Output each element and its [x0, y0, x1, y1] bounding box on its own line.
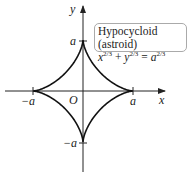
y-axis-label: y — [69, 2, 76, 16]
x-axis-label: x — [158, 93, 165, 107]
legend-equation: x2/3 + y2/3 = a2/3 — [98, 51, 186, 64]
tick-label-neg-y: −a — [63, 136, 77, 150]
tick-label-pos-x: a — [130, 94, 136, 108]
legend-box: Hypocycloid (astroid) x2/3 + y2/3 = a2/3 — [94, 23, 187, 52]
origin-label: O — [69, 93, 78, 107]
tick-label-neg-x: −a — [21, 94, 35, 108]
tick-label-pos-y: a — [70, 34, 76, 48]
legend-title: Hypocycloid (astroid) — [98, 25, 186, 51]
